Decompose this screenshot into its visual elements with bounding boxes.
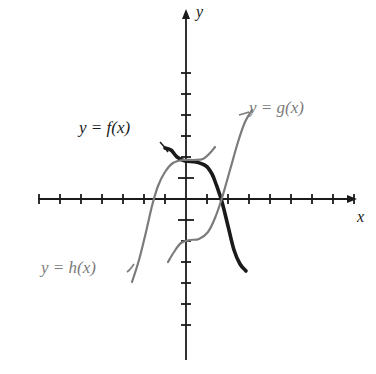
y-axis (178, 18, 194, 360)
x-axis (38, 194, 354, 204)
curve-group (132, 110, 252, 282)
h-label-leader (127, 264, 134, 272)
plot-canvas (0, 0, 376, 374)
function-graph-figure: y x y = f(x) y = g(x) y = h(x) (0, 0, 376, 374)
curve-f (165, 148, 246, 271)
y-axis-label: y (196, 3, 203, 21)
x-axis-label: x (357, 208, 364, 226)
curve-label-g: y = g(x) (249, 99, 304, 116)
curve-h (132, 147, 215, 282)
curve-label-f: y = f(x) (79, 119, 130, 136)
curve-label-h: y = h(x) (41, 259, 96, 276)
g-label-leader (239, 112, 249, 115)
curve-g (168, 110, 252, 262)
